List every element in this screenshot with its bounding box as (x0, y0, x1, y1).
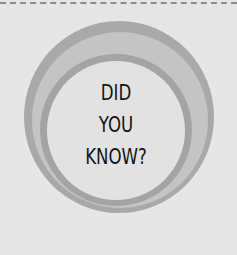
dashed-border-line (0, 2, 237, 4)
headline-line-2: YOU (55, 109, 176, 141)
headline-line-1: DID (55, 77, 176, 109)
did-you-know-headline: DID YOU KNOW? (55, 77, 176, 173)
headline-line-3: KNOW? (55, 141, 176, 173)
